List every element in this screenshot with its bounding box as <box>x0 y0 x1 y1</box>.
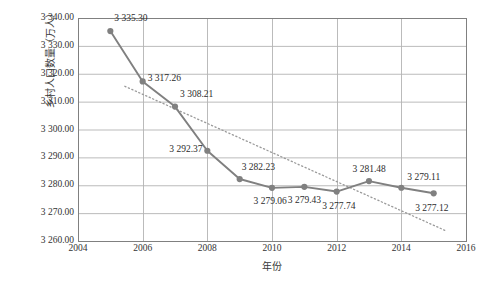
y-axis-tick-label: 3 270.00 <box>12 208 74 217</box>
y-axis-tick-label: 3 300.00 <box>12 125 74 134</box>
data-point-marker <box>140 78 146 84</box>
data-point-label: 3 317.26 <box>148 73 181 83</box>
x-axis-tick-label: 2004 <box>53 243 103 253</box>
x-axis-title: 年份 <box>247 258 297 273</box>
x-axis-tick-label: 2006 <box>118 243 168 253</box>
line-chart: 乡村人口数量（万人） 3 260.003 270.003 280.003 290… <box>0 0 490 291</box>
data-point-label: 3 282.23 <box>242 162 275 172</box>
plot-background <box>78 18 466 241</box>
y-axis-tick-label: 3 330.00 <box>12 41 74 50</box>
x-axis-tick-label: 2016 <box>441 243 490 253</box>
data-point-label: 3 292.37 <box>169 144 202 154</box>
x-axis-tick-label: 2012 <box>312 243 362 253</box>
data-point-label: 3 279.06 <box>254 196 287 206</box>
data-point-marker <box>107 28 113 34</box>
data-point-marker <box>301 184 307 190</box>
data-point-marker <box>172 104 178 110</box>
y-axis-tick-label: 3 340.00 <box>12 13 74 22</box>
data-point-marker <box>366 178 372 184</box>
x-axis-tick-label: 2014 <box>376 243 426 253</box>
data-point-marker <box>431 190 437 196</box>
y-axis-tick-label: 3 320.00 <box>12 69 74 78</box>
data-point-marker <box>334 188 340 194</box>
x-axis-tick-labels: 2004200620082010201220142016 <box>0 243 490 259</box>
y-axis-tick-label: 3 280.00 <box>12 180 74 189</box>
data-point-label: 3 281.48 <box>353 164 386 174</box>
data-point-label: 3 277.74 <box>322 201 355 211</box>
data-point-label: 3 335.30 <box>114 13 147 23</box>
data-point-label: 3 279.11 <box>407 172 440 182</box>
data-point-marker <box>398 185 404 191</box>
y-axis-tick-label: 3 290.00 <box>12 152 74 161</box>
data-point-marker <box>237 176 243 182</box>
data-point-label: 3 277.12 <box>415 203 448 213</box>
x-axis-tick-label: 2010 <box>247 243 297 253</box>
x-axis-tick-label: 2008 <box>182 243 232 253</box>
data-point-marker <box>204 148 210 154</box>
data-point-label: 3 308.21 <box>180 89 213 99</box>
y-axis-tick-label: 3 310.00 <box>12 97 74 106</box>
data-point-label: 3 279.43 <box>288 195 321 205</box>
data-point-marker <box>269 185 275 191</box>
